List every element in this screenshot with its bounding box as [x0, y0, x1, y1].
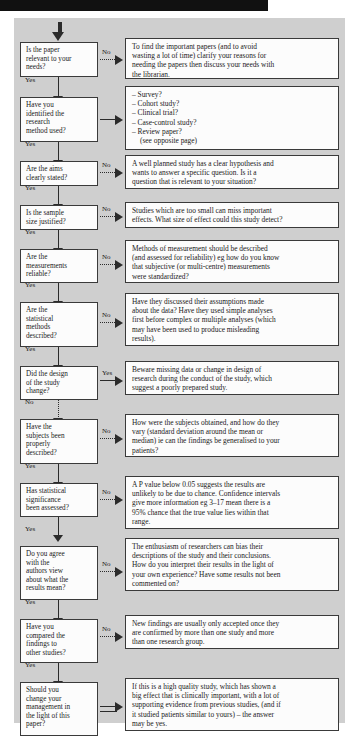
text-line: subjects been [26, 432, 93, 441]
text-line: Should you [26, 686, 93, 695]
text-line: size justified? [26, 218, 93, 227]
next-line-method [58, 142, 59, 161]
text-line: Are the [26, 253, 93, 262]
text-line: The enthusiasm of researchers can bias t… [132, 542, 333, 551]
text-line: patients? [132, 446, 333, 455]
branch-arrowhead-aims [115, 168, 123, 178]
text-line: Is the paper [26, 46, 93, 55]
text-line: Methods of measurement should be describ… [132, 244, 333, 253]
answer-box-design-change[interactable]: Beware missing data or change in design … [125, 361, 339, 395]
branch-label-compared-findings: No [102, 625, 111, 633]
question-box-authors-view[interactable]: Do you agreewith theauthors viewabout wh… [20, 546, 98, 600]
text-line: (and assessed for reliability) eg how do… [132, 253, 333, 262]
flowchart-canvas: Is the paperrelevant to yourneeds?To fin… [14, 18, 345, 723]
text-line: (see opposite page) [132, 136, 333, 145]
text-line: A P value below 0.05 suggests the result… [132, 480, 333, 489]
question-box-subjects-described[interactable]: Have thesubjects beenproperlydescribed? [20, 419, 98, 464]
text-line: the light of this [26, 712, 93, 721]
text-line: the librarian. [132, 70, 333, 79]
question-box-relevance[interactable]: Is the paperrelevant to yourneeds? [20, 42, 98, 77]
next-line-statistical-methods [58, 347, 59, 366]
text-line: that subjective (or multi-centre) measur… [132, 262, 333, 271]
next-line-significance [58, 517, 59, 536]
question-box-sample-size[interactable]: Is the samplesize justified? [20, 205, 98, 230]
branch-arrowhead-relevance [115, 55, 123, 65]
next-label-authors-view: Yes [25, 598, 35, 606]
text-line: – Cohort study? [132, 99, 333, 108]
answer-box-change-management[interactable]: If this is a high quality study, which h… [125, 678, 339, 731]
question-box-measurements[interactable]: Are themeasurementsreliable? [20, 249, 98, 283]
question-box-change-management[interactable]: Should youchange yourmanagement inthe li… [20, 682, 98, 736]
question-box-aims[interactable]: Are the aimsclearly stated? [20, 161, 98, 186]
branch-arrowhead-authors-view [115, 567, 123, 577]
text-line: Do you agree [26, 550, 93, 559]
answer-box-compared-findings[interactable]: New findings are usually only accepted o… [125, 615, 339, 649]
text-line: Are the [26, 306, 93, 315]
text-line: needing the papers then discuss your nee… [132, 60, 333, 69]
text-line: range. [132, 517, 333, 526]
text-line: Beware missing data or change in design … [132, 365, 333, 374]
text-line: paper? [26, 720, 93, 729]
text-line: supporting evidence from previous studie… [132, 700, 333, 709]
answer-box-significance[interactable]: A P value below 0.05 suggests the result… [125, 476, 339, 529]
question-box-significance[interactable]: Has statisticalsignificancebeen assessed… [20, 483, 98, 517]
text-line: may be yes. [132, 719, 333, 728]
branch-arrowhead-measurements [115, 260, 123, 270]
text-line: wants to answer a specific question. Is … [132, 168, 333, 177]
text-line: results). [132, 334, 333, 343]
branch-label-measurements: No [102, 253, 111, 261]
branch-label-subjects-described: No [102, 427, 111, 435]
text-line: methods [26, 323, 93, 332]
branch-label-sample-size: No [102, 205, 111, 213]
text-line: suggest a poorly prepared study. [132, 383, 333, 392]
text-line: How do you interpret their results in th… [132, 560, 333, 569]
text-line: – Clinical trial? [132, 108, 333, 117]
branch-label-relevance: No [102, 48, 111, 56]
next-line-relevance [58, 77, 59, 97]
answer-box-aims[interactable]: A well planned study has a clear hypothe… [125, 155, 339, 189]
text-line: – Survey? [132, 90, 333, 99]
text-line: were standardized? [132, 272, 333, 281]
text-line: question that is relevant to your situat… [132, 177, 333, 186]
answer-box-relevance[interactable]: To find the important papers (and to avo… [125, 38, 339, 79]
question-box-method[interactable]: Have youidentified theresearchmethod use… [20, 97, 98, 142]
question-box-statistical-methods[interactable]: Are thestatisticalmethodsdescribed? [20, 302, 98, 347]
answer-box-method[interactable]: – Survey?– Cohort study?– Clinical trial… [125, 86, 339, 150]
text-line: How were the subjects obtained, and how … [132, 418, 333, 427]
text-line: – Review paper? [132, 127, 333, 136]
branch-arrowhead-change-management [115, 702, 123, 712]
text-line: about what the [26, 576, 93, 585]
text-line: your own experience? Have some results n… [132, 570, 333, 579]
next-line-aims [58, 186, 59, 205]
text-line: may have been used to produce misleading [132, 325, 333, 334]
answer-box-measurements[interactable]: Methods of measurement should be describ… [125, 240, 339, 283]
next-label-subjects-described: Yes [25, 462, 35, 470]
text-line: Have you [26, 101, 93, 110]
answer-box-statistical-methods[interactable]: Have they discussed their assumptions ma… [125, 293, 339, 346]
answer-box-authors-view[interactable]: The enthusiasm of researchers can bias t… [125, 538, 339, 591]
next-label-measurements: Yes [25, 281, 35, 289]
text-line: described? [26, 449, 93, 458]
branch-label-statistical-methods: No [102, 311, 111, 319]
branch-arrowhead-method [115, 115, 123, 125]
answer-box-subjects-described[interactable]: How were the subjects obtained, and how … [125, 414, 339, 457]
question-box-compared-findings[interactable]: Have youcompared thefindings toother stu… [20, 619, 98, 663]
text-line: give more information eg 3–17 mean there… [132, 498, 333, 507]
text-line: unlikely to be due to chance. Confidence… [132, 489, 333, 498]
text-line: research during the conduct of the study… [132, 374, 333, 383]
answer-box-sample-size[interactable]: Studies which are too small can miss imp… [125, 202, 339, 228]
next-label-statistical-methods: Yes [25, 345, 35, 353]
text-line: authors view [26, 567, 93, 576]
text-line: findings to [26, 640, 93, 649]
text-line: management in [26, 703, 93, 712]
text-line: statistical [26, 315, 93, 324]
text-line: To find the important papers (and to avo… [132, 42, 333, 51]
next-line-compared-findings [58, 663, 59, 682]
text-line: about the data? Have they used simple an… [132, 306, 333, 315]
text-line: Have you [26, 623, 93, 632]
text-line: needs? [26, 63, 93, 72]
entry-arrow-head [52, 32, 64, 41]
text-line: If this is a high quality study, which h… [132, 682, 333, 691]
branch-label-significance: No [102, 488, 111, 496]
question-box-design-change[interactable]: Did the designof the studychange? [20, 366, 98, 400]
